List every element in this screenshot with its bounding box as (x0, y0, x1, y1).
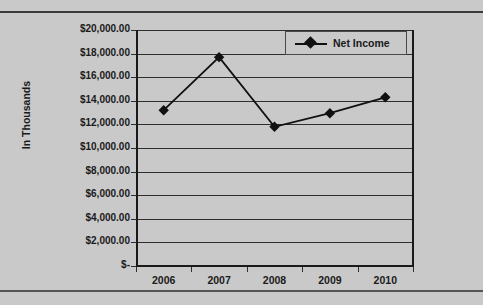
y-axis-line (136, 30, 138, 267)
y-axis-labels: $-$2,000.00$4,000.00$6,000.00$8,000.00$1… (38, 13, 130, 290)
y-axis-tick (131, 77, 136, 78)
y-axis-tick (131, 30, 136, 31)
y-axis-tick (131, 242, 136, 243)
x-axis-category-label: 2006 (134, 274, 194, 286)
plot-area (136, 30, 413, 266)
x-axis-category-label: 2008 (245, 274, 305, 286)
x-axis-line (136, 265, 414, 267)
series-net-income (136, 30, 413, 266)
x-axis-tick (413, 267, 414, 272)
y-axis-tick-label: $4,000.00 (44, 212, 130, 223)
plot-right-border (412, 30, 414, 267)
y-axis-tick (131, 195, 136, 196)
data-point-marker[interactable] (325, 108, 335, 118)
y-axis-title: In Thousands (20, 55, 32, 175)
y-axis-tick (131, 219, 136, 220)
y-axis-tick (131, 124, 136, 125)
y-axis-tick-label: $16,000.00 (44, 70, 130, 81)
y-axis-tick (131, 101, 136, 102)
net-income-line-chart: In Thousands $-$2,000.00$4,000.00$6,000.… (0, 13, 483, 290)
x-axis-category-label: 2010 (355, 274, 415, 286)
x-axis-tick (247, 267, 248, 272)
y-axis-tick-label: $10,000.00 (44, 141, 130, 152)
legend-label-net-income: Net Income (333, 37, 390, 49)
x-axis-tick (136, 267, 137, 272)
x-axis-tick (358, 267, 359, 272)
page-bottom-rule (0, 290, 483, 292)
chart-screenshot: In Thousands $-$2,000.00$4,000.00$6,000.… (0, 0, 483, 305)
x-axis-tick (302, 267, 303, 272)
y-axis-tick-label: $20,000.00 (44, 23, 130, 34)
diamond-marker-icon (304, 36, 317, 49)
chart-legend[interactable]: Net Income (285, 31, 407, 55)
y-axis-tick (131, 54, 136, 55)
data-point-marker[interactable] (380, 92, 390, 102)
y-axis-tick-label: $8,000.00 (44, 165, 130, 176)
x-axis-tick (191, 267, 192, 272)
y-axis-tick-label: $14,000.00 (44, 94, 130, 105)
series-line (164, 57, 386, 127)
x-axis-category-label: 2009 (300, 274, 360, 286)
x-axis-category-label: 2007 (189, 274, 249, 286)
y-axis-tick-label: $12,000.00 (44, 117, 130, 128)
y-axis-tick-label: $2,000.00 (44, 235, 130, 246)
y-axis-tick (131, 172, 136, 173)
series-markers (159, 52, 391, 132)
y-axis-tick (131, 148, 136, 149)
y-axis-tick-label: $- (44, 259, 130, 270)
y-axis-tick-label: $6,000.00 (44, 188, 130, 199)
y-axis-tick-label: $18,000.00 (44, 47, 130, 58)
